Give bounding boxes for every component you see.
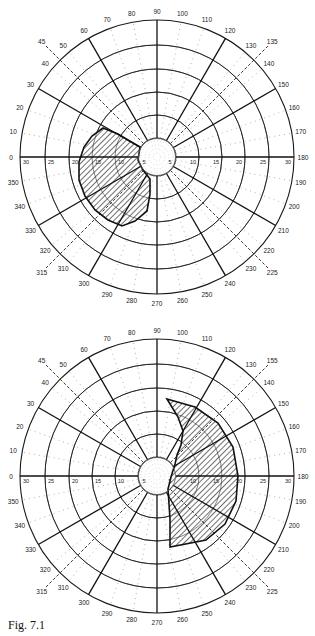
meridian-label: 210 xyxy=(278,546,289,553)
meridian-label: 300 xyxy=(79,599,90,606)
meridian-label: 260 xyxy=(177,616,188,623)
eccentricity-label: 10 xyxy=(190,159,196,165)
meridian-label: 180 xyxy=(298,473,309,480)
eccentricity-label: 10 xyxy=(118,478,124,484)
meridian-label: 120 xyxy=(225,27,236,34)
meridian-label: 20 xyxy=(16,423,24,430)
dotted-meridian xyxy=(52,388,142,464)
meridian-label: 280 xyxy=(126,616,137,623)
meridian-label: 10 xyxy=(10,447,18,454)
dotted-meridian xyxy=(52,488,142,564)
meridian-label: 80 xyxy=(128,10,136,17)
eccentricity-label: 30 xyxy=(23,159,29,165)
meridian-label: 330 xyxy=(25,546,36,553)
meridian-label: 250 xyxy=(202,610,213,617)
eccentricity-label: 5 xyxy=(168,159,171,165)
meridian-label: 90 xyxy=(153,8,161,15)
meridian-label: 90 xyxy=(153,327,161,334)
meridian-label: 330 xyxy=(25,227,36,234)
meridian-label: 240 xyxy=(225,280,236,287)
meridian-label: 210 xyxy=(278,227,289,234)
meridian-label: 240 xyxy=(225,599,236,606)
eccentricity-label: 25 xyxy=(48,478,54,484)
meridian-label: 300 xyxy=(79,280,90,287)
diagonal-label: 225 xyxy=(267,269,278,276)
meridian-label: 160 xyxy=(289,104,300,111)
meridian-label: 190 xyxy=(295,179,306,186)
meridian-label: 290 xyxy=(102,610,113,617)
meridian-label: 230 xyxy=(245,584,256,591)
meridian-label: 120 xyxy=(225,346,236,353)
meridian-label: 100 xyxy=(177,329,188,336)
eccentricity-label: 15 xyxy=(213,478,219,484)
meridian-label: 60 xyxy=(80,346,88,353)
eccentricity-label: 20 xyxy=(236,478,242,484)
dotted-meridian xyxy=(169,52,245,142)
meridian-label: 290 xyxy=(102,291,113,298)
eccentricity-label: 30 xyxy=(285,478,291,484)
meridian-label: 10 xyxy=(10,128,18,135)
diagonal-label: 135 xyxy=(267,38,278,45)
meridian-label: 140 xyxy=(263,60,274,67)
eccentricity-label: 10 xyxy=(190,478,196,484)
diagonal-label: 45 xyxy=(38,357,46,364)
dotted-meridian xyxy=(69,371,145,461)
dotted-meridian xyxy=(169,172,245,262)
meridian-label: 130 xyxy=(245,361,256,368)
meridian-label: 160 xyxy=(289,423,300,430)
meridian-label: 130 xyxy=(245,42,256,49)
meridian-label: 70 xyxy=(103,16,111,23)
eccentricity-label: 10 xyxy=(118,159,124,165)
meridian-label: 190 xyxy=(295,498,306,505)
diagonal-label: 155 xyxy=(267,357,278,364)
meridian-label: 150 xyxy=(278,81,289,88)
meridian-label: 220 xyxy=(263,247,274,254)
eccentricity-label: 30 xyxy=(23,478,29,484)
meridian-label: 280 xyxy=(126,297,137,304)
meridian-label: 50 xyxy=(60,42,68,49)
eccentricity-label: 20 xyxy=(236,159,242,165)
meridian-label: 0 xyxy=(9,154,13,161)
meridian-label: 110 xyxy=(202,335,213,342)
eccentricity-label: 15 xyxy=(95,159,101,165)
meridian-label: 320 xyxy=(40,566,51,573)
meridian-label: 0 xyxy=(9,473,13,480)
meridian-label: 270 xyxy=(152,619,163,626)
meridian-label: 30 xyxy=(27,400,35,407)
meridian-label: 170 xyxy=(295,447,306,454)
meridian-label: 340 xyxy=(14,522,25,529)
visual-field-chart-bottom: 0102030405060708090100110120130140150160… xyxy=(0,319,315,634)
meridian-label: 70 xyxy=(103,335,111,342)
meridian-label: 310 xyxy=(58,265,69,272)
meridian-label: 200 xyxy=(289,203,300,210)
figure-caption: Fig. 7.1 xyxy=(8,618,45,633)
meridian-label: 100 xyxy=(177,10,188,17)
meridian-label: 200 xyxy=(289,522,300,529)
meridian-label: 230 xyxy=(245,265,256,272)
meridian-label: 30 xyxy=(27,81,35,88)
eccentricity-label: 5 xyxy=(168,478,171,484)
dotted-meridian xyxy=(172,169,262,245)
meridian-label: 50 xyxy=(60,361,68,368)
meridian-label: 350 xyxy=(8,498,19,505)
eccentricity-label: 15 xyxy=(95,478,101,484)
meridian-label: 40 xyxy=(42,379,50,386)
meridian-label: 140 xyxy=(263,379,274,386)
visual-field-chart-top: 0102030405060708090100110120130140150160… xyxy=(0,0,315,315)
dotted-meridian xyxy=(69,491,145,581)
meridian-label: 40 xyxy=(42,60,50,67)
diagonal-label: 45 xyxy=(38,38,46,45)
meridian-label: 340 xyxy=(14,203,25,210)
meridian-label: 170 xyxy=(295,128,306,135)
diagonal-label: 315 xyxy=(36,588,47,595)
meridian-label: 20 xyxy=(16,104,24,111)
hatched-defect-region xyxy=(79,128,150,226)
meridian-label: 320 xyxy=(40,247,51,254)
eccentricity-label: 5 xyxy=(142,159,145,165)
meridian-label: 260 xyxy=(177,297,188,304)
polar-chart-bottom: 0102030405060708090100110120130140150160… xyxy=(0,319,315,634)
meridian-label: 250 xyxy=(202,291,213,298)
eccentricity-label: 30 xyxy=(285,159,291,165)
meridian-label: 220 xyxy=(263,566,274,573)
eccentricity-label: 25 xyxy=(260,159,266,165)
